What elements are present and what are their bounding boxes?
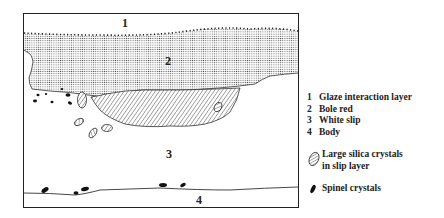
label-body: 4 <box>196 193 202 207</box>
bole-red-layer <box>24 28 298 97</box>
label-slip: 3 <box>166 147 172 161</box>
legend-item: 3White slip <box>307 115 412 127</box>
body-boundary-line <box>23 187 298 195</box>
label-bole: 2 <box>165 54 171 68</box>
hatched-ellipse-icon <box>307 149 321 169</box>
label-glaze: 1 <box>122 16 128 30</box>
layer-legend: 1Glaze interaction layer 2Bole red 3Whit… <box>307 92 412 138</box>
black-ellipse-icon <box>307 183 321 197</box>
legend-item: 2Bole red <box>307 104 412 116</box>
legend-item: 4Body <box>307 127 412 139</box>
legend-item: 1Glaze interaction layer <box>307 92 412 104</box>
